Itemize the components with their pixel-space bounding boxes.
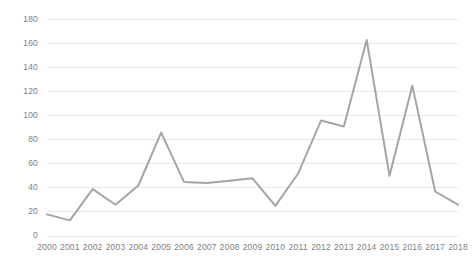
data-line-series-1 [47,40,458,220]
y-tick-label: 180 [8,14,38,24]
y-tick-label: 100 [8,110,38,120]
y-tick-label: 60 [8,158,38,168]
data-series-group [47,40,458,220]
y-tick-label: 20 [8,206,38,216]
gridlines [47,20,458,237]
y-tick-label: 0 [8,230,38,240]
x-tick-label: 2018 [441,242,472,252]
y-tick-label: 40 [8,182,38,192]
y-tick-label: 160 [8,38,38,48]
y-tick-label: 140 [8,62,38,72]
y-tick-label: 120 [8,86,38,96]
y-tick-label: 80 [8,134,38,144]
